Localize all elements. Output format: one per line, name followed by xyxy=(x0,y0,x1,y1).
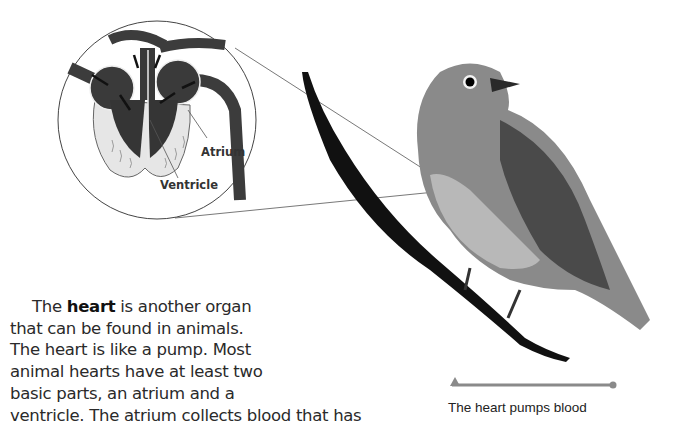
figure-caption: The heart pumps blood xyxy=(448,400,587,415)
bird xyxy=(417,64,650,331)
text-line-1: The heart is another organ xyxy=(10,296,370,318)
text-line-2: that can be found in animals. xyxy=(10,318,370,340)
heart-diagram xyxy=(58,21,256,219)
text-line-3: The heart is like a pump. Most xyxy=(10,339,370,361)
body-paragraph: The heart is another organ that can be f… xyxy=(10,296,370,421)
text-line-4: animal hearts have at least two xyxy=(10,361,370,383)
text-line-6: ventricle. The atrium collects blood tha… xyxy=(10,405,370,421)
text-line-5: basic parts, an atrium and a xyxy=(10,383,370,405)
caption-indicator xyxy=(450,377,617,389)
atrium-label: Atrium xyxy=(201,145,245,159)
ventricle-label: Ventricle xyxy=(160,178,218,192)
keyword-heart: heart xyxy=(67,297,116,316)
